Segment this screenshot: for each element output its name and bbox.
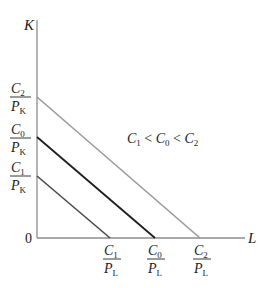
- k-axis-label: K: [23, 17, 35, 33]
- svg-text:PK: PK: [10, 140, 27, 157]
- svg-text:C2: C2: [194, 243, 208, 260]
- svg-text:C1: C1: [104, 243, 118, 260]
- svg-text:PL: PL: [147, 261, 162, 278]
- cost-inequality-annotation: C1 < C0 < C2: [127, 131, 198, 148]
- svg-text:C2: C2: [11, 81, 25, 98]
- isocost-line-c1: [37, 176, 110, 238]
- x-intercept-label-c0: C0 PL: [147, 243, 165, 278]
- y-intercept-label-c0: C0 PK: [10, 122, 31, 157]
- y-intercept-label-c1: C1 PK: [10, 160, 31, 195]
- x-intercept-label-c2: C2 PL: [193, 243, 211, 278]
- svg-text:PK: PK: [10, 99, 27, 116]
- svg-text:C0: C0: [148, 243, 162, 260]
- l-axis-label: L: [247, 230, 256, 246]
- isocost-line-c2: [37, 97, 200, 238]
- svg-text:C1: C1: [11, 160, 25, 177]
- x-intercept-label-c1: C1 PL: [103, 243, 121, 278]
- svg-text:C0: C0: [11, 122, 25, 139]
- isocost-line-c0: [37, 137, 155, 238]
- isocost-diagram: K L 0 C2 PK C0 PK C1 PK C1 PL C0 PL C2 P…: [0, 0, 271, 288]
- svg-text:PL: PL: [193, 261, 208, 278]
- svg-text:PK: PK: [10, 178, 27, 195]
- y-intercept-label-c2: C2 PK: [10, 81, 31, 116]
- svg-text:PL: PL: [103, 261, 118, 278]
- origin-label: 0: [25, 231, 32, 246]
